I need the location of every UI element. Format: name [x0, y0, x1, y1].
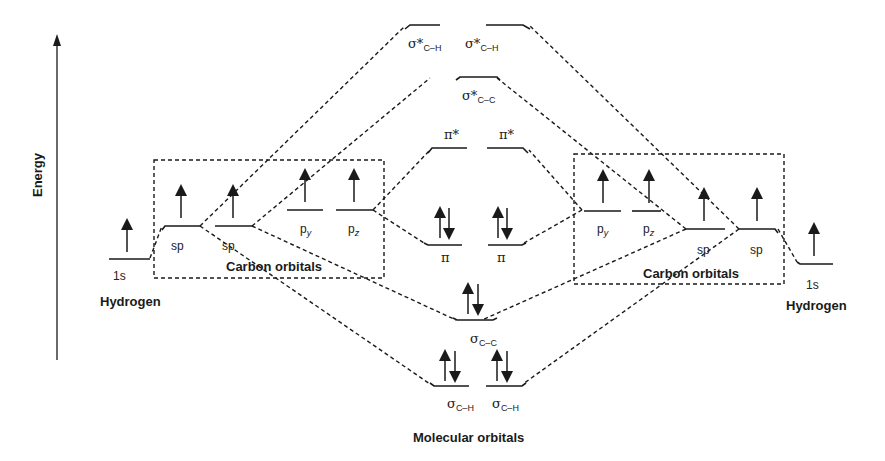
- sigma-star-ch-2-label: σ*C–H: [465, 36, 498, 53]
- pi-star-2-level: [487, 148, 528, 153]
- right-hydrogen-label: Hydrogen: [786, 298, 847, 313]
- sigma-star-ch-2-level: [486, 25, 530, 29]
- right-carbon-orbitals-label: Carbon orbitals: [643, 266, 739, 281]
- sigma-star-cc-level: [456, 77, 500, 80]
- left-sp1-level: [162, 226, 200, 230]
- right-py-label: py: [597, 222, 609, 238]
- mo-diagram: Energy 1s Hydrogen sp: [0, 0, 885, 461]
- energy-label: Energy: [30, 152, 45, 197]
- sigma-ch-2-label: σC–H: [492, 396, 519, 413]
- pi-2-level: [488, 243, 526, 245]
- pi-1-level: [424, 243, 462, 245]
- sigma-ch-2-level: [486, 383, 526, 386]
- sigma-cc-level: [453, 318, 497, 320]
- sigma-ch-1-label: σC–H: [447, 396, 474, 413]
- sigma-star-ch-1-level: [405, 25, 440, 29]
- left-pz-label: pz: [348, 222, 360, 238]
- left-sp1-label: sp: [171, 239, 184, 253]
- right-h-1s-label: 1s: [806, 278, 819, 292]
- pi-star-1-level: [428, 148, 467, 153]
- right-pz-label: pz: [643, 222, 655, 238]
- sigma-cc-label: σC–C: [470, 331, 497, 348]
- left-py-label: py: [300, 222, 312, 238]
- right-sp1-label: sp: [697, 243, 710, 257]
- left-sp2-label: sp: [222, 239, 235, 253]
- right-sp2-label: sp: [750, 243, 763, 257]
- sigma-star-ch-1-label: σ*C–H: [408, 36, 441, 53]
- pi-1-label: π: [441, 250, 450, 265]
- molecular-orbitals-title: Molecular orbitals: [413, 430, 524, 445]
- right-sp2-level: [739, 229, 778, 233]
- left-carbon-orbitals-label: Carbon orbitals: [226, 259, 322, 274]
- energy-axis: Energy: [30, 34, 61, 360]
- pi-2-label: π: [497, 250, 506, 265]
- axis-arrow-icon: [53, 34, 61, 46]
- left-h-1s-label: 1s: [113, 269, 126, 283]
- pi-star-1-label: π*: [444, 127, 460, 142]
- sigma-star-cc-label: σ*C–C: [462, 88, 496, 105]
- molecular-orbitals: σ*C–H σ*C–H σ*C–C π* π* π π σC–C σC–H σC…: [405, 25, 530, 445]
- right-atomic-orbitals: py pz sp sp 1s Hydrogen Carbon orbitals: [584, 175, 847, 313]
- pi-star-2-label: π*: [499, 127, 515, 142]
- left-atomic-orbitals: 1s Hydrogen sp sp py pz Carbon orbitals: [100, 174, 373, 309]
- left-hydrogen-label: Hydrogen: [100, 294, 161, 309]
- right-h-1s-level: [797, 262, 833, 264]
- sigma-ch-1-level: [430, 383, 469, 386]
